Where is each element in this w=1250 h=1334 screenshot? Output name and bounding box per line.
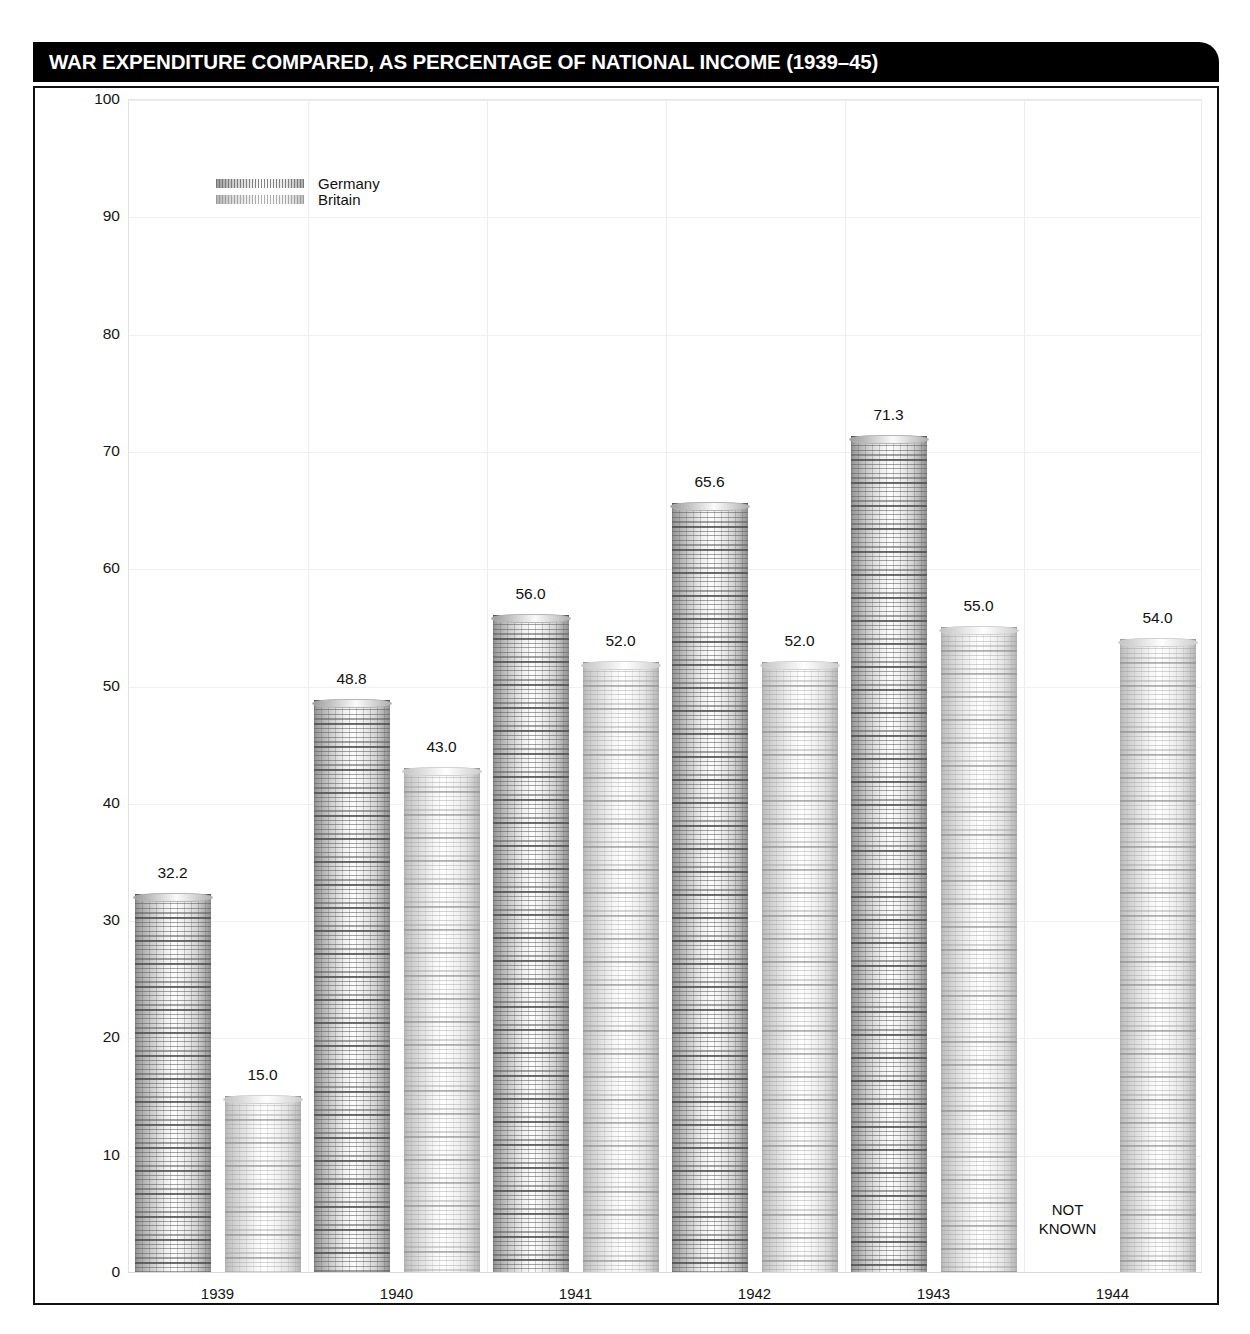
bar-value-label-germany-1939: 32.2 [113, 864, 233, 882]
bar-germany-1939[interactable] [135, 894, 211, 1272]
bar-value-label-germany-1941: 56.0 [471, 585, 591, 603]
coin-stack-germany [851, 436, 927, 1272]
coin-stack-britain [1120, 639, 1196, 1272]
bar-germany-1941[interactable] [493, 615, 569, 1272]
chart-page: WAR EXPENDITURE COMPARED, AS PERCENTAGE … [0, 0, 1250, 1334]
gridline-y-60 [129, 569, 1201, 570]
coin-stack-icon-britain [216, 195, 304, 204]
gridline-y-90 [129, 217, 1201, 218]
x-tick-label-1939: 1939 [201, 1285, 234, 1302]
chart-title-bar: WAR EXPENDITURE COMPARED, AS PERCENTAGE … [33, 42, 1219, 82]
not-known-label-1944: NOTKNOWN [1008, 1200, 1128, 1238]
y-axis: 0102030405060708090100 [66, 99, 120, 1272]
x-tick-label-1942: 1942 [738, 1285, 771, 1302]
y-tick-label-60: 60 [74, 559, 120, 577]
gridline-y-30 [129, 921, 1201, 922]
legend-label-britain: Britain [318, 192, 361, 207]
bar-britain-1943[interactable] [941, 627, 1017, 1272]
year-separator-1942 [666, 100, 667, 1272]
y-tick-label-20: 20 [74, 1028, 120, 1046]
bar-britain-1944[interactable] [1120, 639, 1196, 1272]
bar-value-label-germany-1942: 65.6 [650, 473, 770, 491]
coin-stack-germany [672, 503, 748, 1272]
coin-top-icon [402, 767, 482, 776]
coin-stack-britain [941, 627, 1017, 1272]
coin-top-icon [312, 699, 392, 708]
axis-baseline [128, 1272, 1202, 1273]
y-tick-label-70: 70 [74, 442, 120, 460]
coin-stack-germany [493, 615, 569, 1272]
bar-value-label-germany-1943: 71.3 [829, 406, 949, 424]
coin-top-icon [849, 435, 929, 444]
coin-top-icon [491, 614, 571, 623]
coin-stack-britain [762, 662, 838, 1272]
bar-value-label-britain-1943: 55.0 [919, 597, 1039, 615]
y-tick-label-50: 50 [74, 677, 120, 695]
bar-germany-1940[interactable] [314, 700, 390, 1272]
gridline-y-50 [129, 687, 1201, 688]
coin-top-icon [939, 626, 1019, 635]
bar-britain-1941[interactable] [583, 662, 659, 1272]
y-tick-label-40: 40 [74, 794, 120, 812]
coin-top-icon [223, 1095, 303, 1104]
coin-top-icon [1118, 638, 1198, 647]
coin-top-icon [133, 893, 213, 902]
coin-stack-britain [225, 1096, 301, 1272]
legend-item-britain: Britain [216, 194, 380, 205]
bar-britain-1940[interactable] [404, 768, 480, 1272]
chart-legend: Germany Britain [216, 178, 380, 205]
coin-stack-germany [135, 894, 211, 1272]
year-separator-1941 [487, 100, 488, 1272]
coin-stack-icon-germany [216, 179, 304, 188]
year-separator-1943 [845, 100, 846, 1272]
bar-value-label-britain-1944: 54.0 [1098, 609, 1218, 627]
y-tick-label-90: 90 [74, 207, 120, 225]
coin-top-icon [760, 661, 840, 670]
x-tick-label-1940: 1940 [380, 1285, 413, 1302]
not-known-line-2: KNOWN [1008, 1219, 1128, 1238]
year-separator-1944 [1024, 100, 1025, 1272]
legend-item-germany: Germany [216, 178, 380, 189]
bar-germany-1942[interactable] [672, 503, 748, 1272]
bar-value-label-britain-1940: 43.0 [382, 738, 502, 756]
y-tick-label-0: 0 [74, 1263, 120, 1281]
gridline-y-40 [129, 804, 1201, 805]
coin-stack-britain [583, 662, 659, 1272]
coin-top-icon [581, 661, 661, 670]
y-tick-label-10: 10 [74, 1146, 120, 1164]
not-known-line-1: NOT [1008, 1200, 1128, 1219]
bar-britain-1939[interactable] [225, 1096, 301, 1272]
bar-germany-1943[interactable] [851, 436, 927, 1272]
bar-value-label-britain-1942: 52.0 [740, 632, 860, 650]
coin-top-icon [670, 502, 750, 511]
bar-value-label-britain-1941: 52.0 [561, 632, 681, 650]
legend-label-germany: Germany [318, 176, 380, 191]
coin-stack-britain [404, 768, 480, 1272]
bar-value-label-britain-1939: 15.0 [203, 1066, 323, 1084]
bar-value-label-germany-1940: 48.8 [292, 670, 412, 688]
y-tick-label-80: 80 [74, 325, 120, 343]
x-tick-label-1944: 1944 [1096, 1285, 1129, 1302]
gridline-y-70 [129, 452, 1201, 453]
x-tick-label-1943: 1943 [917, 1285, 950, 1302]
page-title: WAR EXPENDITURE COMPARED, AS PERCENTAGE … [49, 50, 878, 74]
bar-britain-1942[interactable] [762, 662, 838, 1272]
y-tick-label-100: 100 [74, 90, 120, 108]
x-tick-label-1941: 1941 [559, 1285, 592, 1302]
coin-stack-germany [314, 700, 390, 1272]
gridline-y-100 [129, 100, 1201, 101]
gridline-y-80 [129, 335, 1201, 336]
y-tick-label-30: 30 [74, 911, 120, 929]
gridline-y-20 [129, 1038, 1201, 1039]
